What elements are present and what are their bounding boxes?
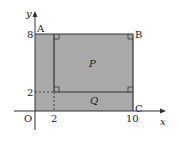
y-tick-8: 8 xyxy=(27,29,33,40)
x-tick-2: 2 xyxy=(51,113,57,124)
point-c-label: C xyxy=(135,103,143,114)
y-axis-label: y xyxy=(25,8,32,19)
y-tick-2: 2 xyxy=(27,87,33,98)
point-a-label: A xyxy=(36,23,45,34)
coordinate-diagram: x y O 2 10 2 8 A B C P Q xyxy=(0,0,178,142)
point-b-label: B xyxy=(135,29,142,40)
x-axis-arrow-icon xyxy=(160,109,166,114)
region-q-label: Q xyxy=(90,95,98,106)
x-axis-label: x xyxy=(160,116,166,127)
origin-label: O xyxy=(24,113,32,124)
y-axis-arrow-icon xyxy=(33,11,38,17)
region-p-label: P xyxy=(88,58,96,69)
shaded-region xyxy=(35,34,133,111)
x-tick-10: 10 xyxy=(126,113,139,124)
